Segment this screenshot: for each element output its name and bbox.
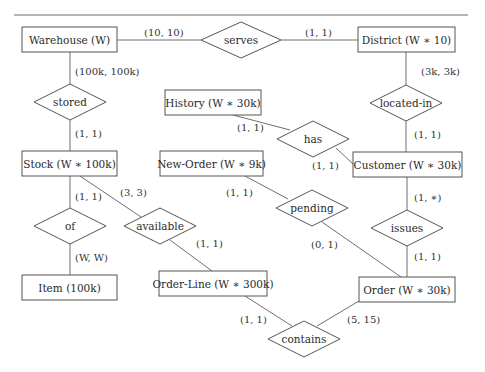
entity-order[interactable]: Order (W ∗ 30k): [359, 277, 455, 302]
relationship-pending[interactable]: pending: [276, 190, 348, 226]
entity-history[interactable]: History (W ∗ 30k): [165, 90, 261, 115]
relationship-label: located-in: [380, 97, 433, 109]
relationship-located-in[interactable]: located-in: [370, 85, 442, 121]
er-diagram: Warehouse (W) District (W ∗ 10) History …: [0, 0, 485, 372]
relationship-has[interactable]: has: [277, 121, 349, 157]
cardinality-district-serves: (1, 1): [305, 27, 332, 38]
cardinality-item-of: (W, W): [75, 252, 108, 263]
cardinality-order-line-available: (1, 1): [196, 238, 223, 249]
entity-label: Stock (W ∗ 100k): [23, 158, 116, 170]
cardinality-warehouse-serves: (10, 10): [144, 27, 184, 38]
relationship-label: serves: [224, 34, 258, 46]
relationship-contains[interactable]: contains: [268, 321, 340, 357]
cardinality-district-located-in: (3k, 3k): [421, 66, 460, 77]
cardinality-customer-has: (1, 1): [312, 160, 339, 171]
entity-label: History (W ∗ 30k): [165, 97, 260, 109]
relationship-stored[interactable]: stored: [34, 84, 106, 120]
entity-label: Order-Line (W ∗ 300k): [153, 278, 274, 290]
cardinality-history-has: (1, 1): [237, 122, 264, 133]
cardinality-order-pending: (0, 1): [311, 239, 338, 250]
relationship-issues[interactable]: issues: [371, 210, 443, 246]
entity-label: Order (W ∗ 30k): [363, 284, 450, 296]
cardinality-stock-of: (1, 1): [75, 191, 102, 202]
entity-label: Warehouse (W): [29, 34, 110, 46]
entity-label: District (W ∗ 10): [362, 34, 451, 46]
relationship-label: contains: [282, 333, 327, 345]
entity-label: Customer (W ∗ 30k): [354, 159, 462, 171]
cardinality-warehouse-stored: (100k, 100k): [75, 66, 140, 77]
relationship-label: issues: [391, 222, 424, 234]
entity-district[interactable]: District (W ∗ 10): [358, 27, 455, 52]
entity-label: New-Order (W ∗ 9k): [157, 158, 266, 170]
cardinality-new-order-pending: (1, 1): [226, 187, 253, 198]
entity-label: Item (100k): [38, 282, 100, 294]
cardinality-stock-stored: (1, 1): [75, 128, 102, 139]
relationship-label: of: [65, 220, 76, 232]
entity-warehouse[interactable]: Warehouse (W): [22, 27, 117, 52]
entity-order-line[interactable]: Order-Line (W ∗ 300k): [153, 271, 274, 296]
cardinality-order-line-contains: (1, 1): [240, 314, 267, 325]
entity-customer[interactable]: Customer (W ∗ 30k): [353, 152, 462, 177]
relationship-of[interactable]: of: [34, 208, 106, 244]
entity-item[interactable]: Item (100k): [22, 275, 117, 300]
cardinality-stock-available: (3, 3): [120, 187, 147, 198]
cardinality-order-issues: (1, 1): [414, 251, 441, 262]
relationship-label: has: [304, 133, 322, 145]
relationship-serves[interactable]: serves: [201, 22, 281, 58]
relationship-label: pending: [290, 202, 334, 214]
entity-new-order[interactable]: New-Order (W ∗ 9k): [157, 151, 266, 176]
relationship-label: available: [136, 220, 184, 232]
cardinality-customer-located-in: (1, 1): [414, 129, 441, 140]
relationship-label: stored: [53, 96, 87, 108]
cardinality-customer-issues: (1, ∗): [414, 192, 441, 203]
entity-stock[interactable]: Stock (W ∗ 100k): [22, 151, 117, 176]
cardinality-order-contains: (5, 15): [347, 314, 380, 325]
